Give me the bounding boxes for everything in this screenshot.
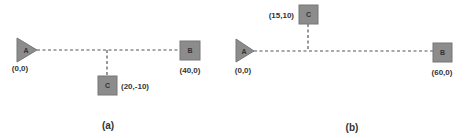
node-c-label: C [306,11,311,18]
node-b-label: B [440,49,445,56]
node-a-label: A [23,47,28,54]
panel-a: A (0,0) B (40,0) C (20,-10) (a) [12,38,201,131]
node-c-label: C [105,82,110,89]
node-b-coord: (40,0) [180,66,201,75]
panel-a-caption: (a) [102,120,114,131]
panel-b: A (0,0) B (60,0) C (15,10) (b) [235,5,453,133]
node-a-coord: (0,0) [12,64,29,73]
diagram-canvas: A (0,0) B (40,0) C (20,-10) (a) A (0,0) … [0,0,467,138]
diagram-stage: A (0,0) B (40,0) C (20,-10) (a) A (0,0) … [0,0,467,138]
node-c-coord: (15,10) [269,11,295,20]
node-b-coord: (60,0) [432,68,453,77]
node-a-label: A [241,48,246,55]
node-b-label: B [187,47,192,54]
panel-b-caption: (b) [346,122,359,133]
node-a-coord: (0,0) [235,66,252,75]
node-c-coord: (20,-10) [121,82,149,91]
